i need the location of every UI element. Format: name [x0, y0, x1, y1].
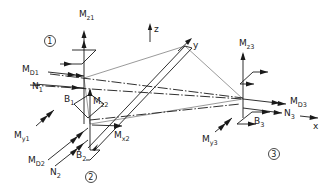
label-md3: MD3	[290, 96, 307, 109]
axis-label-x: x	[313, 121, 319, 131]
label-b3: B3	[254, 116, 264, 129]
label-mz2: Mz2	[93, 96, 108, 109]
label-n2: N2	[50, 167, 61, 180]
node-marker-2: 2	[86, 172, 97, 183]
label-my3: My3	[202, 134, 218, 147]
label-md1: MD1	[22, 64, 39, 77]
label-md2: MD2	[28, 155, 45, 168]
label-b2: B2	[76, 150, 86, 163]
label-n1: N1	[32, 81, 43, 94]
label-mz3: Mz3	[239, 38, 254, 51]
structural-force-diagram: Mz1 MD1 N1 B1 Mz2 My1 Mx2 MD2 N2 B2 Mz3 …	[0, 0, 328, 195]
label-mz1: Mz1	[79, 9, 94, 22]
node-marker-1: 1	[45, 36, 56, 47]
label-mx2: Mx2	[114, 130, 130, 143]
label-n3: N3	[284, 108, 295, 121]
svg-text:1: 1	[47, 37, 52, 46]
label-b1: B1	[64, 94, 74, 107]
frame-outline	[84, 46, 243, 124]
svg-text:3: 3	[271, 150, 276, 159]
axis-label-z: z	[154, 24, 159, 34]
axis-label-y: y	[193, 40, 199, 50]
svg-text:2: 2	[88, 173, 93, 182]
diagonal-beam	[88, 46, 192, 150]
node-marker-3: 3	[269, 149, 280, 160]
label-my1: My1	[14, 130, 30, 143]
